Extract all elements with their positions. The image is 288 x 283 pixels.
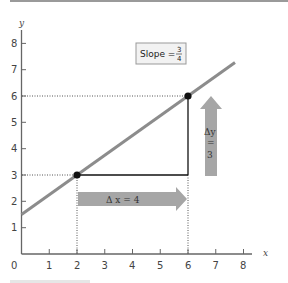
y-tick-2: 2 (11, 196, 17, 207)
y-ticks (22, 43, 27, 227)
point-6-6 (184, 92, 191, 99)
y-tick-4: 4 (11, 143, 17, 154)
delta-y-label-top: Δy (204, 127, 216, 137)
x-tick-0: 0 (11, 260, 17, 271)
x-tick-4: 4 (129, 260, 135, 271)
slope-denominator: 4 (177, 55, 182, 63)
y-tick-1: 1 (11, 222, 17, 233)
slope-box: Slope = 3 4 (136, 43, 186, 64)
slope-label: Slope = (140, 49, 175, 59)
slope-chart: y x 1 2 3 4 5 6 7 8 0 1 2 3 4 (0, 0, 288, 283)
x-tick-labels: 0 1 2 3 4 5 6 7 8 (11, 260, 246, 271)
x-tick-2: 2 (74, 260, 80, 271)
y-tick-8: 8 (11, 38, 17, 49)
delta-y-label-bottom: 3 (207, 150, 213, 160)
delta-x-label: Δ x = 4 (106, 195, 140, 205)
slope-line (22, 63, 236, 215)
y-tick-3: 3 (11, 170, 17, 181)
x-tick-1: 1 (46, 260, 52, 271)
delta-y-label-mid: = (207, 138, 215, 148)
delta-x-arrow: Δ x = 4 (78, 187, 187, 211)
y-tick-6: 6 (11, 91, 17, 102)
point-2-3 (73, 171, 80, 178)
x-tick-6: 6 (185, 260, 191, 271)
x-axis-label: x (263, 248, 268, 258)
x-tick-5: 5 (157, 260, 163, 271)
x-tick-7: 7 (213, 260, 219, 271)
delta-y-arrow: Δy = 3 (200, 96, 222, 176)
y-tick-5: 5 (11, 117, 17, 128)
x-ticks (49, 249, 243, 254)
x-tick-3: 3 (102, 260, 108, 271)
slope-numerator: 3 (177, 46, 181, 54)
y-axis-label: y (18, 18, 25, 28)
x-tick-8: 8 (240, 260, 246, 271)
y-tick-labels: 1 2 3 4 5 6 7 8 (11, 38, 17, 233)
y-tick-7: 7 (11, 64, 17, 75)
